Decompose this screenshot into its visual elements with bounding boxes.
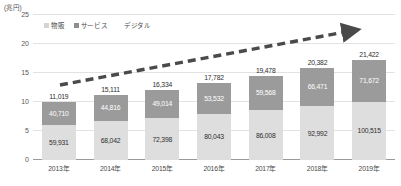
bar-segment-service[interactable]: 49,014 [145, 90, 179, 118]
y-tick-10: 10 [3, 98, 29, 105]
bar-value-digital: 11,019 [34, 93, 84, 100]
bar-value-digital: 16,334 [137, 81, 187, 88]
x-axis-label: 2016年 [189, 163, 239, 173]
bar-value-goods: 92,992 [308, 130, 328, 137]
bar-segment-service[interactable]: 40,710 [42, 102, 76, 126]
x-axis-labels: 2013年2014年2015年2016年2017年2018年2019年 [33, 163, 395, 177]
bar-value-service: 53,532 [204, 95, 224, 102]
x-axis-label: 2015年 [137, 163, 187, 173]
bar-value-service: 66,471 [308, 83, 328, 90]
ec-market-stacked-bar-chart: (兆円) 25 20 15 10 5 0 物販 サービス デジタル 59,931 [0, 0, 401, 186]
bar-value-goods: 100,515 [358, 127, 381, 134]
y-tick-25: 25 [3, 11, 29, 18]
bar-segment-goods[interactable]: 86,008 [249, 110, 283, 160]
y-tick-20: 20 [3, 40, 29, 47]
bar-value-digital: 15,111 [86, 86, 136, 93]
bar-value-goods: 68,042 [101, 137, 121, 144]
bar-value-digital: 17,782 [189, 74, 239, 81]
bar-value-goods: 72,398 [152, 136, 172, 143]
bar-segment-goods[interactable]: 59,931 [42, 125, 76, 160]
x-axis-label: 2017年 [241, 163, 291, 173]
bar-segment-goods[interactable]: 68,042 [94, 121, 128, 160]
bar-segment-goods[interactable]: 80,043 [197, 114, 231, 160]
bar-segment-goods[interactable]: 100,515 [352, 102, 386, 160]
bar-segment-service[interactable]: 66,471 [300, 68, 334, 107]
bar-value-goods: 59,931 [49, 139, 69, 146]
bar-value-service: 71,672 [359, 77, 379, 84]
bar-segment-service[interactable]: 71,672 [352, 60, 386, 102]
bar-value-service: 44,816 [101, 104, 121, 111]
bar-value-service: 40,710 [49, 110, 69, 117]
bar-value-digital: 21,422 [344, 51, 394, 58]
x-axis-label: 2014年 [86, 163, 136, 173]
bar-segment-service[interactable]: 53,532 [197, 83, 231, 114]
x-axis-label: 2013年 [34, 163, 84, 173]
bar-segment-goods[interactable]: 92,992 [300, 106, 334, 160]
bar-value-service: 59,568 [256, 89, 276, 96]
bar-value-digital: 19,478 [241, 67, 291, 74]
y-tick-15: 15 [3, 69, 29, 76]
bar-segment-service[interactable]: 44,816 [94, 95, 128, 121]
bar-value-goods: 86,008 [256, 132, 276, 139]
x-axis-label: 2019年 [344, 163, 394, 173]
y-tick-5: 5 [3, 127, 29, 134]
bar-value-service: 49,014 [152, 100, 172, 107]
bar-series-container: 59,93140,71011,01968,04244,81615,11172,3… [33, 14, 395, 160]
y-tick-0: 0 [3, 156, 29, 163]
y-tick-labels: 25 20 15 10 5 0 [3, 14, 29, 160]
bar-segment-goods[interactable]: 72,398 [145, 118, 179, 160]
bar-value-goods: 80,043 [204, 133, 224, 140]
x-axis-label: 2018年 [292, 163, 342, 173]
bar-value-digital: 20,382 [292, 59, 342, 66]
bar-segment-service[interactable]: 59,568 [249, 76, 283, 111]
